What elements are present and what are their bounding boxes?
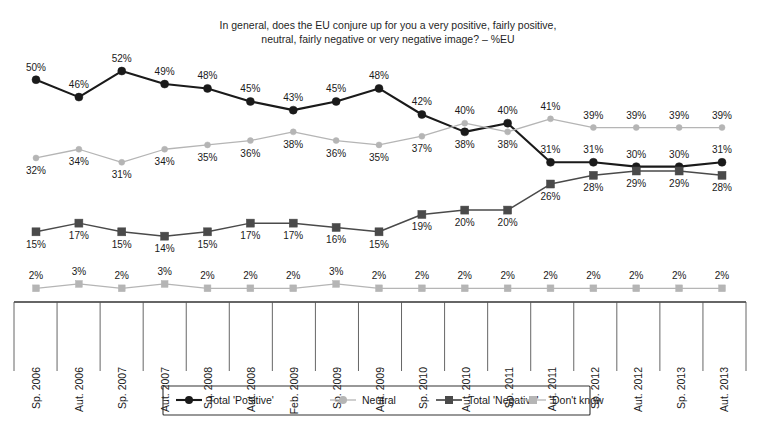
legend-circle-marker-icon	[185, 396, 193, 404]
x-axis-tick-label-1: Aut. 2006	[73, 367, 85, 412]
data-value-label: 20%	[455, 217, 475, 228]
data-value-label: 32%	[26, 165, 46, 176]
data-point-marker	[119, 159, 125, 165]
data-value-label: 2%	[543, 270, 558, 281]
data-value-label: 2%	[629, 270, 644, 281]
data-value-label: 15%	[26, 239, 46, 250]
x-axis-tick-label-2: Sp. 2007	[116, 367, 128, 409]
x-axis-tick-label-16: Aut. 2013	[718, 367, 730, 412]
eu-image-line-chart: In general, does the EU conjure up for y…	[0, 0, 761, 446]
data-value-label: 2%	[458, 270, 473, 281]
data-point-marker	[290, 129, 296, 135]
data-point-marker	[376, 285, 383, 292]
data-value-label: 2%	[243, 270, 258, 281]
data-value-label: 31%	[540, 144, 560, 155]
data-value-label: 35%	[197, 152, 217, 163]
data-value-label: 46%	[69, 79, 89, 90]
chart-title-line-1: In general, does the EU conjure up for y…	[220, 19, 557, 31]
data-value-label: 38%	[283, 139, 303, 150]
data-point-marker	[590, 125, 596, 131]
data-value-label: 37%	[412, 143, 432, 154]
data-point-marker	[33, 285, 40, 292]
data-value-label: 3%	[157, 266, 172, 277]
data-point-marker	[204, 84, 212, 92]
data-point-marker	[504, 206, 512, 214]
data-value-label: 15%	[369, 239, 389, 250]
data-point-marker	[246, 97, 254, 105]
data-point-marker	[676, 285, 683, 292]
data-point-marker	[548, 116, 554, 122]
data-value-label: 15%	[197, 239, 217, 250]
data-value-label: 39%	[712, 110, 732, 121]
data-point-marker	[246, 219, 254, 227]
data-value-label: 31%	[583, 144, 603, 155]
data-point-marker	[247, 285, 254, 292]
data-point-marker	[461, 285, 468, 292]
data-point-marker	[289, 106, 297, 114]
data-value-label: 40%	[498, 105, 518, 116]
data-value-label: 40%	[455, 105, 475, 116]
data-value-label: 2%	[586, 270, 601, 281]
data-point-marker	[333, 281, 340, 288]
data-value-label: 42%	[412, 96, 432, 107]
data-point-marker	[462, 120, 468, 126]
data-point-marker	[75, 281, 82, 288]
data-value-label: 2%	[115, 270, 130, 281]
legend-item-label: Total 'Positive'	[208, 394, 274, 406]
data-point-marker	[461, 206, 469, 214]
data-point-marker	[718, 171, 726, 179]
data-value-label: 48%	[369, 70, 389, 81]
legend-circle-marker-icon	[339, 396, 347, 404]
data-value-label: 17%	[240, 230, 260, 241]
legend-item-label: Don't know	[552, 394, 604, 406]
data-point-marker	[675, 167, 683, 175]
x-axis-tick-label-0: Sp. 2006	[30, 367, 42, 409]
data-point-marker	[75, 219, 83, 227]
data-value-label: 49%	[155, 66, 175, 77]
data-value-label: 14%	[155, 243, 175, 254]
data-value-label: 45%	[326, 83, 346, 94]
legend-square-marker-icon	[445, 396, 453, 404]
data-point-marker	[75, 93, 83, 101]
data-value-label: 29%	[626, 178, 646, 189]
data-value-label: 17%	[283, 230, 303, 241]
data-value-label: 52%	[112, 53, 132, 64]
data-value-label: 2%	[672, 270, 687, 281]
data-point-marker	[547, 285, 554, 292]
data-point-marker	[504, 119, 512, 127]
data-value-label: 34%	[155, 156, 175, 167]
x-axis-tick-label-9: Sp. 2010	[417, 367, 429, 409]
data-value-label: 2%	[286, 270, 301, 281]
data-point-marker	[719, 125, 725, 131]
x-axis-tick-label-14: Aut. 2012	[632, 367, 644, 412]
data-point-marker	[247, 138, 253, 144]
data-point-marker	[204, 228, 212, 236]
data-point-marker	[718, 158, 726, 166]
data-value-label: 38%	[455, 139, 475, 150]
data-point-marker	[632, 167, 640, 175]
data-point-marker	[161, 281, 168, 288]
data-point-marker	[461, 128, 469, 136]
data-value-label: 2%	[715, 270, 730, 281]
data-point-marker	[118, 285, 125, 292]
data-value-label: 31%	[712, 144, 732, 155]
legend-square-marker-icon	[529, 396, 537, 404]
chart-title-line-2: neutral, fairly negative or very negativ…	[261, 33, 514, 45]
data-value-label: 28%	[583, 182, 603, 193]
data-point-marker	[32, 76, 40, 84]
x-axis-tick-label-6: Feb. 2009	[288, 367, 300, 414]
data-point-marker	[418, 285, 425, 292]
data-point-marker	[719, 285, 726, 292]
data-point-marker	[118, 228, 126, 236]
data-point-marker	[375, 84, 383, 92]
data-value-label: 3%	[329, 266, 344, 277]
data-point-marker	[333, 138, 339, 144]
data-value-label: 2%	[500, 270, 515, 281]
data-point-marker	[505, 129, 511, 135]
data-value-label: 43%	[283, 92, 303, 103]
data-value-label: 19%	[412, 221, 432, 232]
data-point-marker	[376, 142, 382, 148]
data-point-marker	[290, 285, 297, 292]
data-value-label: 41%	[540, 101, 560, 112]
legend-item-label: Neutral	[362, 394, 396, 406]
